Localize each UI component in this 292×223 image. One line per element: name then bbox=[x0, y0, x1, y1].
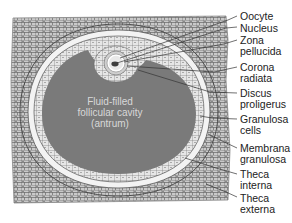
label-corona-radiata: Corona radiata bbox=[240, 62, 274, 84]
label-zona-pellucida: Zona pellucida bbox=[240, 35, 281, 57]
antrum-label: Fluid-filled follicular cavity (antrum) bbox=[60, 96, 160, 129]
oocyte-nucleus bbox=[111, 62, 118, 67]
label-nucleus: Nucleus bbox=[240, 23, 278, 34]
follicle-diagram: Fluid-filled follicular cavity (antrum) … bbox=[0, 0, 292, 223]
label-oocyte: Oocyte bbox=[240, 11, 273, 22]
label-discus-proligerus: Discus proligerus bbox=[240, 88, 286, 110]
label-membrana-granulosa: Membrana granulosa bbox=[240, 143, 290, 165]
label-theca-externa: Theca externa bbox=[240, 193, 275, 215]
label-theca-interna: Theca interna bbox=[240, 169, 272, 191]
label-granulosa-cells: Granulosa cells bbox=[240, 114, 288, 136]
